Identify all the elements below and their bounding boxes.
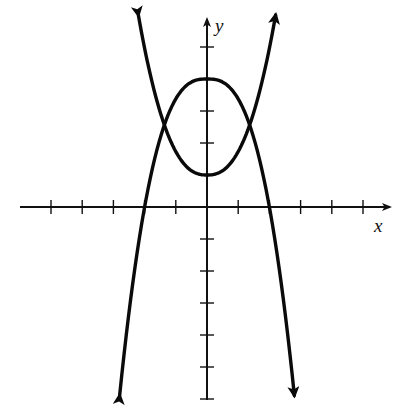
x-axis: x [20,200,390,236]
y-axis-label: y [213,15,224,36]
graph-canvas: x y [0,0,399,409]
x-axis-label: x [373,215,383,236]
